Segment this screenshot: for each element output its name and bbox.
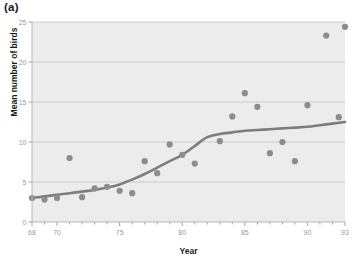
x-tick-label: 70 xyxy=(53,229,61,236)
y-tick-label: 0 xyxy=(23,219,27,226)
x-axis-ticks: 68707580859093 xyxy=(28,222,349,236)
y-tick-label: 5 xyxy=(23,179,27,186)
x-tick-label: 85 xyxy=(241,229,249,236)
data-point xyxy=(279,139,285,145)
data-point xyxy=(179,152,185,158)
data-point xyxy=(154,170,160,176)
y-axis-ticks: 0510152025 xyxy=(19,19,32,226)
data-point xyxy=(336,114,342,120)
data-point xyxy=(104,184,110,190)
data-point xyxy=(342,24,348,30)
x-tick-label: 93 xyxy=(341,229,349,236)
data-point xyxy=(54,195,60,201)
data-point xyxy=(66,155,72,161)
data-point xyxy=(323,33,329,39)
x-tick-label: 90 xyxy=(304,229,312,236)
data-point xyxy=(242,90,248,96)
data-point xyxy=(229,113,235,119)
data-point xyxy=(254,104,260,110)
data-point xyxy=(117,188,123,194)
y-tick-label: 15 xyxy=(19,99,27,106)
x-tick-label: 80 xyxy=(178,229,186,236)
data-point xyxy=(267,150,273,156)
data-point xyxy=(41,197,47,203)
y-tick-label: 20 xyxy=(19,59,27,66)
data-point xyxy=(192,161,198,167)
scatter-plot: 0510152025 68707580859093 xyxy=(0,0,355,266)
data-point xyxy=(129,190,135,196)
x-tick-label: 75 xyxy=(116,229,124,236)
y-tick-label: 10 xyxy=(19,139,27,146)
data-point xyxy=(217,138,223,144)
figure-panel-a: (a) Mean number of birds Year 0510152025… xyxy=(0,0,355,266)
data-point xyxy=(79,194,85,200)
data-point xyxy=(92,185,98,191)
x-tick-label: 68 xyxy=(28,229,36,236)
data-point xyxy=(292,158,298,164)
data-point xyxy=(167,141,173,147)
data-point xyxy=(142,158,148,164)
data-point xyxy=(304,102,310,108)
y-tick-label: 25 xyxy=(19,19,27,26)
